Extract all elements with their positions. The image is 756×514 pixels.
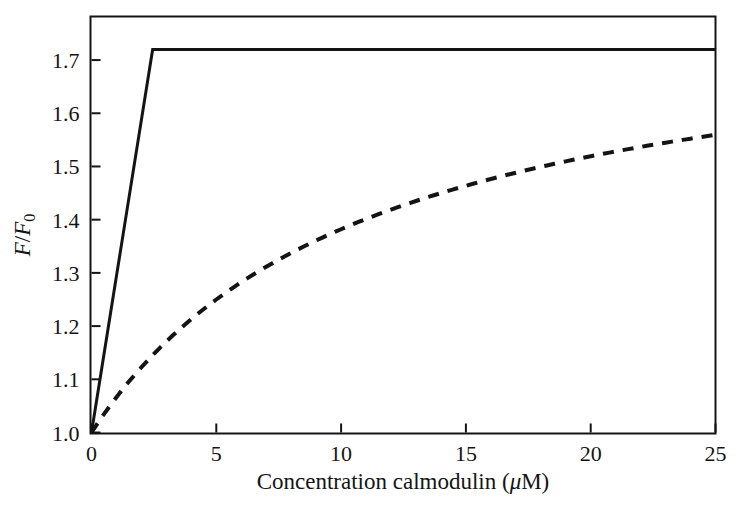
y-axis-tick-label: 1.5 [52,154,80,179]
y-axis-tick-label: 1.7 [52,48,80,73]
x-axis-tick-label: 20 [580,441,602,466]
x-axis-title-prefix: Concentration calmodulin ( [257,469,510,494]
y-axis-tick-label: 1.6 [52,101,80,126]
figure-root: 1.01.11.21.31.41.51.61.7 0510152025 F/F0… [0,0,756,514]
y-axis-tick-label: 1.2 [52,314,80,339]
y-axis-tick-label: 1.3 [52,261,80,286]
y-axis-title-denominator: F [10,221,35,237]
x-axis-title-mu-symbol: μ [509,469,522,494]
chart-canvas: 1.01.11.21.31.41.51.61.7 0510152025 F/F0… [0,0,756,514]
y-axis-tick-label: 1.4 [52,208,80,233]
x-axis-title-suffix: M) [521,469,549,494]
svg-text:Concentration calmodulin (μM): Concentration calmodulin (μM) [257,469,550,494]
x-axis-title: Concentration calmodulin (μM) [257,469,550,494]
y-axis-tick-label: 1.1 [52,367,80,392]
y-axis-tick-label: 1.0 [52,421,80,446]
x-axis-tick-label: 0 [86,441,97,466]
x-axis-tick-label: 15 [455,441,477,466]
x-axis-tick-label: 10 [330,441,352,466]
y-axis-title-subscript: 0 [21,214,38,222]
y-axis-title-numerator: F [10,241,35,257]
figure-background [0,0,756,514]
x-axis-tick-label: 5 [211,441,222,466]
x-axis-tick-label: 25 [705,441,727,466]
